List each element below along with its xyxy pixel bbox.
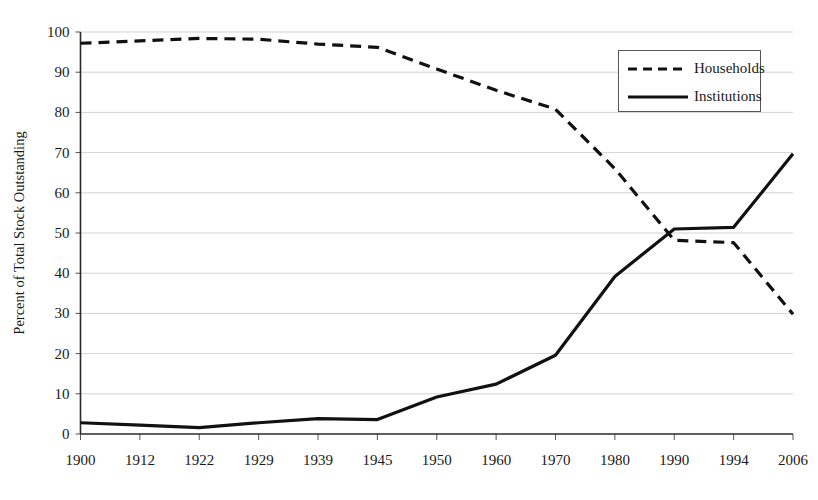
chart-legend: Households Institutions xyxy=(619,51,765,112)
y-tick-label: 100 xyxy=(47,24,70,40)
x-tick-label: 1900 xyxy=(66,452,96,468)
chart-figure: 0102030405060708090100 19001912192219291… xyxy=(0,0,818,500)
x-tick-label: 1994 xyxy=(719,452,750,468)
y-tick-label: 20 xyxy=(55,346,70,362)
y-tick-label: 0 xyxy=(62,426,70,442)
x-tick-label: 1960 xyxy=(481,452,511,468)
y-tick-label: 70 xyxy=(55,145,70,161)
x-tick-label: 1970 xyxy=(541,452,571,468)
x-tick-label: 1939 xyxy=(303,452,333,468)
x-tick-label: 1980 xyxy=(600,452,630,468)
y-axis-title: Percent of Total Stock Outstanding xyxy=(11,131,27,334)
x-tick-label: 1990 xyxy=(659,452,689,468)
x-tick-label: 1950 xyxy=(422,452,452,468)
y-tick-label: 40 xyxy=(55,265,70,281)
x-tick-label: 1945 xyxy=(362,452,392,468)
x-tick-label: 1912 xyxy=(125,452,155,468)
x-tick-label: 1929 xyxy=(244,452,274,468)
x-tick-label: 2006 xyxy=(778,452,809,468)
legend-label-institutions: Institutions xyxy=(694,88,762,104)
y-tick-label: 30 xyxy=(55,305,70,321)
y-tick-label: 60 xyxy=(55,185,70,201)
y-tick-label: 50 xyxy=(55,225,70,241)
y-tick-label: 80 xyxy=(55,104,70,120)
y-tick-label: 90 xyxy=(55,64,70,80)
legend-label-households: Households xyxy=(694,60,765,76)
y-tick-label: 10 xyxy=(55,386,70,402)
line-chart: 0102030405060708090100 19001912192219291… xyxy=(0,0,818,500)
x-tick-label: 1922 xyxy=(184,452,214,468)
